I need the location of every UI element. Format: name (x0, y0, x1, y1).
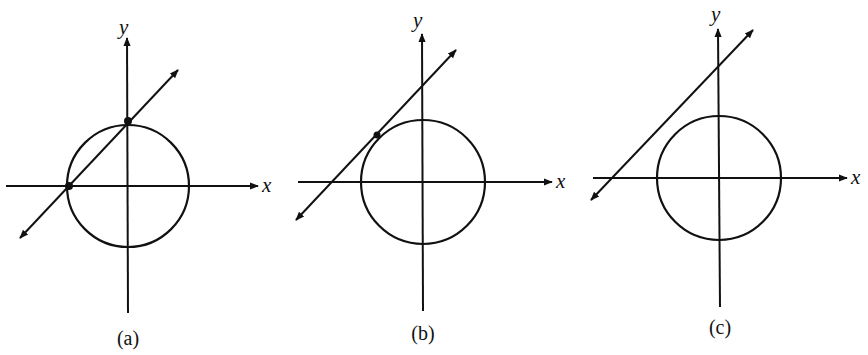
non-intersecting-line (591, 30, 753, 200)
y-axis-label: y (411, 8, 423, 32)
y-axis (127, 38, 128, 313)
intersection-point-top (124, 117, 132, 125)
panel-caption: (a) (117, 327, 139, 350)
y-axis (422, 34, 423, 311)
panel-c: y x (c) (591, 2, 861, 339)
panel-a: y x (a) (6, 15, 272, 350)
panel-caption: (c) (709, 316, 731, 339)
intersection-point-left (65, 182, 73, 190)
figure: y x (a) y x (b) y x (c) (0, 0, 868, 355)
y-axis-label: y (709, 2, 721, 26)
panel-caption: (b) (411, 322, 434, 345)
x-axis-label: x (261, 173, 272, 197)
tangent-point (374, 132, 381, 139)
x-axis-label: x (850, 165, 861, 189)
y-axis (718, 29, 720, 307)
y-axis-label: y (117, 15, 129, 39)
secant-line (20, 70, 178, 238)
panel-b: y x (b) (296, 8, 566, 345)
x-axis-label: x (555, 169, 566, 193)
